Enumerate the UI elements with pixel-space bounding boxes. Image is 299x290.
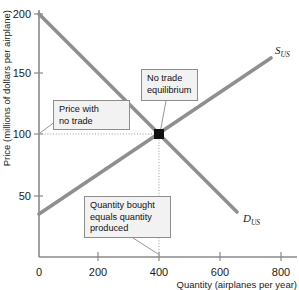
y-tick-label-200: 200 bbox=[13, 8, 31, 20]
callout-price-with-no-trade: Price with no trade bbox=[53, 100, 130, 130]
x-tick-label-800: 800 bbox=[272, 266, 290, 278]
y-tick-label-150: 150 bbox=[13, 67, 31, 79]
x-tick-label-600: 600 bbox=[211, 266, 229, 278]
supply-curve-label: SUS bbox=[275, 44, 290, 59]
y-tick-label-50: 50 bbox=[19, 190, 31, 202]
y-axis-title: Price (millions of dollars per airplane) bbox=[1, 10, 12, 166]
x-axis-title: Quantity (airplanes per year) bbox=[177, 279, 297, 290]
callout-quantity-bought-equals-produced: Quantity bought equals quantity produced bbox=[84, 196, 171, 238]
chart-canvas: 200 150 100 50 0 200 400 600 800 Quantit… bbox=[0, 0, 299, 290]
equilibrium-point-marker bbox=[154, 129, 164, 139]
x-tick-label-0: 0 bbox=[36, 266, 42, 278]
x-tick-label-200: 200 bbox=[89, 266, 107, 278]
quantity-callout-leader bbox=[130, 236, 158, 254]
callout-no-trade-equilibrium: No trade equilibrium bbox=[141, 69, 198, 101]
y-tick-label-100: 100 bbox=[13, 128, 31, 140]
demand-curve-label: DUS bbox=[242, 212, 260, 227]
x-tick-label-400: 400 bbox=[150, 266, 168, 278]
economics-supply-demand-figure: 200 150 100 50 0 200 400 600 800 Quantit… bbox=[0, 0, 299, 290]
